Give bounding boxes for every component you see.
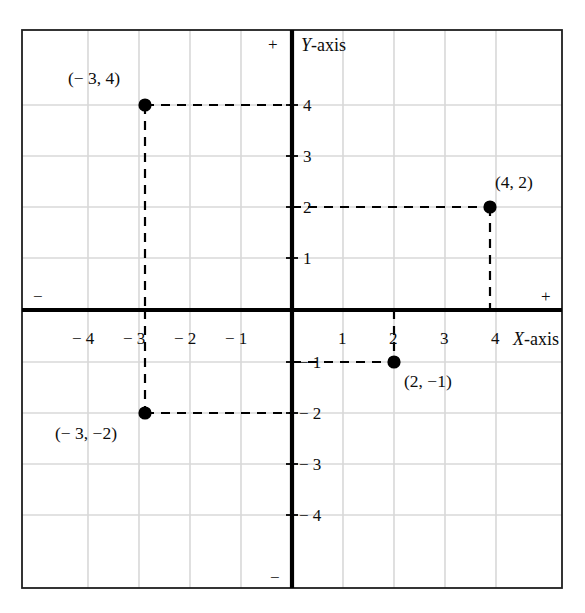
y-tick-label-2: 2 bbox=[303, 199, 312, 216]
x-tick-label-minus-1: − 1 bbox=[225, 330, 247, 347]
x-tick-label-3: 3 bbox=[440, 330, 449, 347]
point-label-neg3-4: (− 3, 4) bbox=[68, 70, 120, 88]
x-axis-label: X-axis bbox=[513, 330, 559, 348]
y-tick-label-3: 3 bbox=[303, 148, 312, 165]
x-axis-positive-sign: + bbox=[541, 288, 551, 305]
point-label-neg3-neg2: (− 3, −2) bbox=[55, 425, 117, 443]
x-tick-label-minus-2: − 2 bbox=[174, 330, 196, 347]
y-tick-label-minus-1: − 1 bbox=[299, 354, 321, 371]
y-tick-label-minus-4: − 4 bbox=[299, 507, 321, 524]
data-point-marker bbox=[387, 355, 400, 368]
x-tick-label-minus-3: − 3 bbox=[123, 330, 145, 347]
data-point-marker bbox=[483, 200, 496, 213]
x-axis-negative-sign: − bbox=[33, 288, 43, 305]
y-axis-negative-sign: − bbox=[270, 569, 280, 586]
y-tick-label-4: 4 bbox=[303, 97, 312, 114]
coordinate-plane-canvas bbox=[0, 0, 585, 613]
data-point-marker bbox=[138, 406, 151, 419]
point-label-2-neg1: (2, −1) bbox=[404, 373, 452, 391]
x-tick-label-minus-4: − 4 bbox=[72, 330, 94, 347]
x-tick-label-2: 2 bbox=[389, 330, 398, 347]
x-tick-label-1: 1 bbox=[338, 330, 347, 347]
data-point-marker bbox=[138, 98, 151, 111]
axis-lines bbox=[22, 30, 562, 588]
y-axis-positive-sign: + bbox=[268, 36, 278, 53]
x-tick-label-4: 4 bbox=[491, 330, 500, 347]
y-tick-label-minus-3: − 3 bbox=[299, 456, 321, 473]
point-label-4-2: (4, 2) bbox=[495, 174, 533, 192]
coordinate-plane-figure: + − − + Y-axis X-axis 4 3 2 1 − 1 − 2 − … bbox=[0, 0, 585, 613]
y-tick-label-minus-2: − 2 bbox=[299, 405, 321, 422]
y-tick-label-1: 1 bbox=[303, 250, 312, 267]
y-axis-label: Y-axis bbox=[301, 36, 346, 54]
